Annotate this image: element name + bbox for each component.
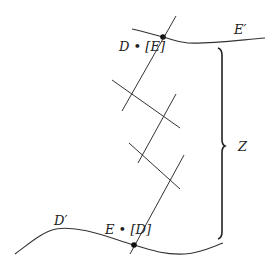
label-d-prime: D′ xyxy=(53,213,67,228)
label-bottom-point: E • [D] xyxy=(104,222,152,237)
segment-3 xyxy=(130,155,184,254)
segment-2 xyxy=(138,94,176,163)
label-z: Z xyxy=(237,139,248,154)
cross-segment-2 xyxy=(129,143,180,189)
segment-1 xyxy=(122,16,176,111)
brace-z xyxy=(218,48,225,239)
label-e-prime: E′ xyxy=(233,22,246,37)
diagram: E′ D • [E] D′ E • [D] Z xyxy=(0,0,277,264)
point-bottom xyxy=(131,242,137,248)
cross-segment-1 xyxy=(112,80,180,128)
